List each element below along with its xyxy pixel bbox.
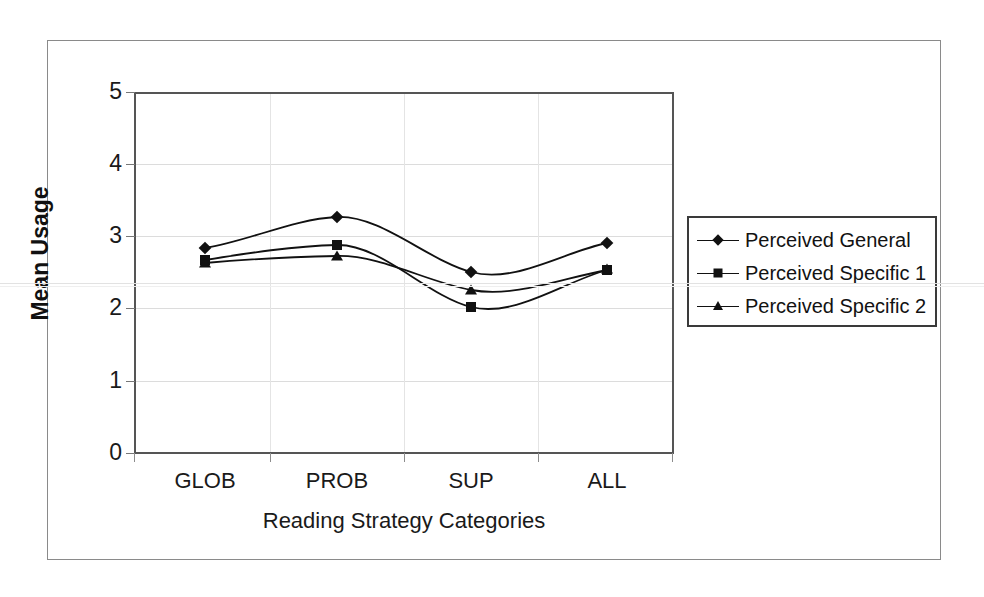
gridline-x-2 xyxy=(404,92,405,453)
ytick-mark-3 xyxy=(126,236,135,237)
gridline-x-1 xyxy=(270,92,271,453)
datapoint-specific2-all xyxy=(601,264,613,274)
ytick-label-0: 0 xyxy=(82,441,122,464)
datapoint-specific1-sup xyxy=(466,302,476,312)
legend-triangle-marker-icon xyxy=(697,300,739,314)
datapoint-specific2-sup xyxy=(465,285,477,295)
ytick-label-2: 2 xyxy=(82,296,122,319)
chart-figure: 5 4 3 2 1 0 GLOB PROB SUP ALL Reading St… xyxy=(0,0,984,597)
plot-border-left xyxy=(134,92,136,454)
ytick-mark-5 xyxy=(126,92,135,93)
xtick-label-prob: PROB xyxy=(277,468,397,494)
ytick-label-4: 4 xyxy=(82,152,122,175)
datapoint-specific2-prob xyxy=(331,251,343,261)
ytick-mark-1 xyxy=(126,381,135,382)
legend-item-perceived-specific-1: Perceived Specific 1 xyxy=(689,257,935,290)
ytick-label-1: 1 xyxy=(82,369,122,392)
legend-label-perceived-general: Perceived General xyxy=(745,229,911,252)
ytick-label-3: 3 xyxy=(82,224,122,247)
ytick-label-5: 5 xyxy=(82,80,122,103)
chart-legend: Perceived General Perceived Specific 1 P… xyxy=(687,216,937,327)
legend-item-perceived-specific-2: Perceived Specific 2 xyxy=(689,290,935,323)
y-axis-title: Mean Usage xyxy=(27,154,54,354)
ytick-mark-4 xyxy=(126,164,135,165)
datapoint-specific1-prob xyxy=(332,240,342,250)
plot-border-top xyxy=(134,92,674,94)
xtick-label-sup: SUP xyxy=(411,468,531,494)
xtick-mark-1 xyxy=(270,453,271,462)
datapoint-specific2-glob xyxy=(199,258,211,268)
xtick-mark-2 xyxy=(404,453,405,462)
xtick-mark-4 xyxy=(672,453,673,462)
legend-label-perceived-specific-2: Perceived Specific 2 xyxy=(745,295,926,318)
plot-border-right xyxy=(672,92,674,454)
xtick-label-glob: GLOB xyxy=(145,468,265,494)
legend-label-perceived-specific-1: Perceived Specific 1 xyxy=(745,262,926,285)
ytick-mark-2 xyxy=(126,308,135,309)
x-axis-title: Reading Strategy Categories xyxy=(134,508,674,534)
legend-square-marker-icon xyxy=(697,267,739,281)
xtick-label-all: ALL xyxy=(547,468,667,494)
gridline-x-3 xyxy=(538,92,539,453)
legend-item-perceived-general: Perceived General xyxy=(689,224,935,257)
legend-diamond-marker-icon xyxy=(697,234,739,248)
xtick-mark-3 xyxy=(538,453,539,462)
xtick-mark-0 xyxy=(134,453,135,462)
